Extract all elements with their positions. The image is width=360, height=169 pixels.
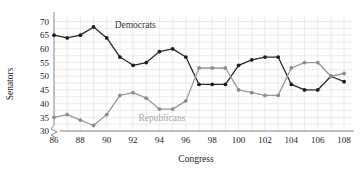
y-tick-label: 55	[40, 58, 50, 68]
data-point	[303, 61, 307, 65]
x-tick-label: 92	[129, 135, 138, 145]
data-point	[316, 61, 320, 65]
x-tick-label: 98	[208, 135, 218, 145]
data-point	[289, 83, 293, 87]
y-axis-title: Senators	[5, 67, 15, 100]
data-point	[92, 124, 96, 128]
series-annotation-republicans: Republicans	[138, 113, 185, 123]
x-tick-label: 96	[181, 135, 191, 145]
data-point	[276, 55, 280, 59]
data-point	[224, 83, 228, 87]
data-point	[144, 96, 148, 100]
series-annotation-democrats: Democrats	[115, 20, 156, 30]
x-axis-title: Congress	[178, 154, 214, 164]
y-tick-label: 65	[40, 30, 50, 40]
x-tick-label: 88	[76, 135, 86, 145]
data-point	[171, 47, 175, 51]
y-tick-label: 70	[40, 17, 50, 27]
y-tick-label: 30	[40, 126, 50, 136]
data-point	[118, 94, 122, 98]
data-point	[105, 36, 109, 40]
data-point	[105, 113, 109, 117]
data-point	[92, 25, 96, 29]
senate-composition-chart: 303540455055606570 868890929496981001021…	[0, 0, 360, 169]
data-point	[52, 33, 56, 37]
data-point	[276, 94, 280, 98]
data-point	[342, 72, 346, 76]
data-point	[118, 55, 122, 59]
x-tick-label: 90	[102, 135, 112, 145]
data-point	[250, 58, 254, 62]
y-tick-label: 45	[40, 85, 50, 95]
x-tick-label: 108	[337, 135, 351, 145]
data-point	[131, 91, 135, 95]
data-point	[237, 88, 241, 92]
data-point	[250, 91, 254, 95]
x-axis-tick-labels: 86889092949698100102104106108	[50, 135, 352, 145]
data-point	[184, 99, 188, 103]
data-point	[65, 36, 69, 40]
data-point	[263, 55, 267, 59]
data-point	[303, 88, 307, 92]
data-point	[210, 83, 214, 87]
data-point	[342, 80, 346, 84]
axes	[51, 12, 354, 137]
data-point	[224, 66, 228, 70]
data-point	[197, 66, 201, 70]
data-point	[78, 118, 82, 122]
data-point	[171, 107, 175, 111]
data-point	[52, 115, 56, 119]
y-tick-label: 60	[40, 44, 50, 54]
data-point	[158, 50, 162, 54]
data-point	[316, 88, 320, 92]
y-tick-label: 35	[40, 113, 50, 123]
data-point	[158, 107, 162, 111]
data-point	[263, 94, 267, 98]
data-point	[237, 63, 241, 67]
y-tick-label: 40	[40, 99, 50, 109]
data-point	[329, 74, 333, 78]
data-point	[289, 66, 293, 70]
chart-canvas: 303540455055606570 868890929496981001021…	[0, 0, 360, 169]
data-point	[197, 83, 201, 87]
data-point	[210, 66, 214, 70]
y-tick-label: 50	[40, 71, 50, 81]
data-point	[184, 55, 188, 59]
data-point	[65, 113, 69, 117]
y-axis-tick-labels: 303540455055606570	[40, 17, 50, 137]
x-tick-label: 100	[232, 135, 246, 145]
x-tick-label: 94	[155, 135, 165, 145]
gridlines	[54, 16, 352, 131]
data-point	[144, 61, 148, 65]
x-tick-label: 102	[258, 135, 272, 145]
x-tick-label: 104	[285, 135, 299, 145]
x-tick-label: 106	[311, 135, 325, 145]
data-point	[78, 33, 82, 37]
x-tick-label: 86	[50, 135, 60, 145]
data-point	[131, 63, 135, 67]
